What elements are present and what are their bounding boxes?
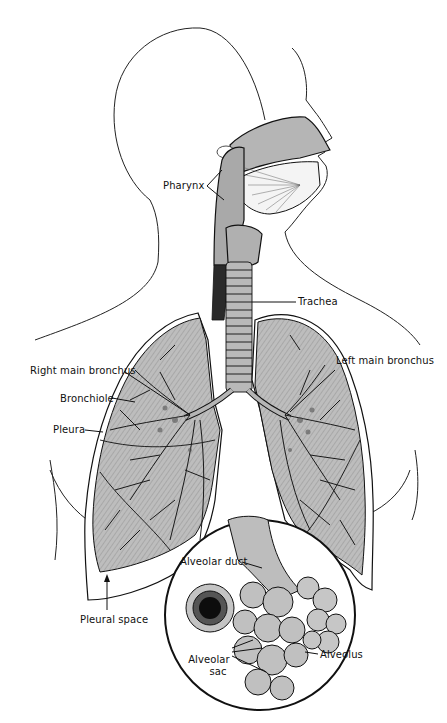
left-shoulder bbox=[35, 262, 158, 340]
label-alveolar-sac: Alveolar sac bbox=[183, 654, 235, 678]
right-torso-side bbox=[412, 450, 418, 520]
label-alveolar-sac-line2: sac bbox=[183, 666, 235, 678]
inset-sectioned-sac bbox=[186, 584, 234, 632]
label-pharynx: Pharynx bbox=[163, 180, 204, 192]
label-alveolus: Alveolus bbox=[320, 649, 363, 661]
label-alveolar-sac-line1: Alveolar bbox=[183, 654, 235, 666]
label-left-main-bronchus: Left main bronchus bbox=[336, 355, 434, 367]
trachea bbox=[226, 262, 252, 392]
label-pleural-space: Pleural space bbox=[80, 614, 148, 626]
larynx bbox=[226, 225, 262, 266]
respiratory-diagram: Pharynx Trachea Right main bronchus Left… bbox=[0, 0, 447, 723]
label-alveolar-duct: Alveolar duct bbox=[180, 556, 247, 568]
label-right-main-bronchus: Right main bronchus bbox=[30, 365, 136, 377]
label-trachea: Trachea bbox=[298, 296, 338, 308]
label-pleura: Pleura bbox=[53, 424, 85, 436]
label-bronchiole: Bronchiole bbox=[60, 393, 114, 405]
left-torso-side bbox=[50, 460, 57, 560]
